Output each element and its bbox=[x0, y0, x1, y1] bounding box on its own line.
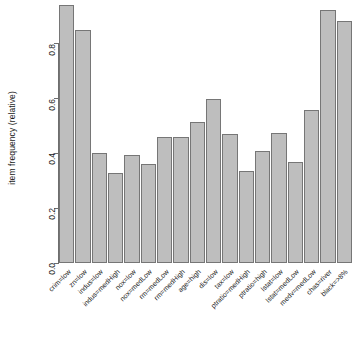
bar bbox=[239, 171, 254, 263]
x-axis-label-slot: black=>8% bbox=[337, 266, 352, 342]
bar bbox=[320, 10, 335, 263]
bar bbox=[59, 5, 74, 263]
bar bbox=[173, 137, 188, 263]
bar bbox=[337, 21, 352, 263]
y-axis-tick-label: 0.8 bbox=[47, 44, 57, 56]
bar bbox=[222, 134, 237, 263]
x-axis-labels: crim=lowzn=lowindus=lowindus=medHighnox=… bbox=[59, 266, 352, 342]
y-axis-tick-label: 0.4 bbox=[47, 153, 57, 165]
bar bbox=[190, 122, 205, 263]
y-axis-title: item frequency (relative) bbox=[0, 0, 24, 275]
y-axis-tick-label: 0.6 bbox=[47, 99, 57, 111]
y-axis: 0.00.20.40.60.8 bbox=[24, 0, 59, 275]
bar bbox=[157, 137, 172, 263]
bar bbox=[255, 151, 270, 263]
y-axis-tick-label: 0.2 bbox=[47, 208, 57, 220]
bar bbox=[141, 164, 156, 263]
plot-area bbox=[59, 0, 352, 263]
bar bbox=[108, 173, 123, 263]
bar bbox=[92, 153, 107, 263]
bar bbox=[288, 162, 303, 263]
bar bbox=[75, 30, 90, 263]
bar bbox=[206, 99, 221, 263]
x-axis-label-slot: lstat=medLow bbox=[288, 266, 303, 342]
bar bbox=[271, 133, 286, 263]
bar bbox=[124, 155, 139, 263]
item-frequency-bar-chart: item frequency (relative) 0.00.20.40.60.… bbox=[0, 0, 354, 342]
y-axis-tick-label: 0.0 bbox=[47, 263, 57, 275]
y-axis-title-text: item frequency (relative) bbox=[7, 91, 17, 185]
bar-series bbox=[59, 0, 352, 263]
bar bbox=[304, 110, 319, 263]
